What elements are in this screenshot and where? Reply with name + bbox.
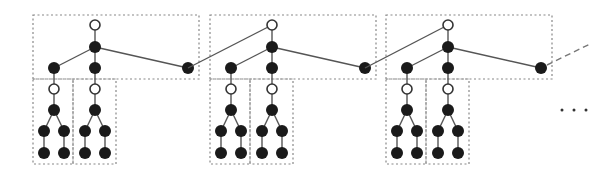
filled-node bbox=[58, 147, 70, 159]
open-node bbox=[443, 20, 453, 30]
filled-node bbox=[48, 62, 60, 74]
chain-edge bbox=[365, 25, 448, 68]
filled-node bbox=[48, 104, 60, 116]
filled-node bbox=[266, 41, 278, 53]
filled-node bbox=[38, 125, 50, 137]
filled-node bbox=[215, 147, 227, 159]
filled-node bbox=[535, 62, 547, 74]
tree-edge bbox=[54, 47, 95, 68]
filled-node bbox=[411, 125, 423, 137]
filled-node bbox=[89, 62, 101, 74]
filled-node bbox=[215, 125, 227, 137]
filled-node bbox=[79, 147, 91, 159]
filled-node bbox=[432, 125, 444, 137]
open-node bbox=[90, 20, 100, 30]
tree-edge bbox=[448, 47, 541, 68]
ellipsis-dot bbox=[573, 109, 576, 112]
filled-node bbox=[276, 125, 288, 137]
filled-node bbox=[256, 125, 268, 137]
filled-node bbox=[266, 62, 278, 74]
filled-node bbox=[235, 125, 247, 137]
filled-node bbox=[432, 147, 444, 159]
chain-edge bbox=[188, 25, 272, 68]
open-node bbox=[267, 20, 277, 30]
filled-node bbox=[442, 62, 454, 74]
filled-node bbox=[79, 125, 91, 137]
ellipsis-dot bbox=[561, 109, 564, 112]
tree-edge bbox=[407, 47, 448, 68]
filled-node bbox=[442, 104, 454, 116]
open-node bbox=[443, 84, 453, 94]
filled-node bbox=[391, 147, 403, 159]
open-node bbox=[49, 84, 59, 94]
open-node bbox=[226, 84, 236, 94]
open-node bbox=[90, 84, 100, 94]
filled-node bbox=[225, 104, 237, 116]
tree-edge bbox=[231, 47, 272, 68]
open-node bbox=[402, 84, 412, 94]
filled-node bbox=[58, 125, 70, 137]
continuation-dashed-edge bbox=[547, 44, 590, 65]
filled-node bbox=[99, 125, 111, 137]
filled-node bbox=[266, 104, 278, 116]
filled-node bbox=[452, 125, 464, 137]
filled-node bbox=[391, 125, 403, 137]
filled-node bbox=[89, 41, 101, 53]
filled-node bbox=[442, 41, 454, 53]
tree-edge bbox=[272, 47, 365, 68]
filled-node bbox=[401, 104, 413, 116]
filled-node bbox=[401, 62, 413, 74]
filled-node bbox=[38, 147, 50, 159]
filled-node bbox=[452, 147, 464, 159]
tree-edge bbox=[95, 47, 188, 68]
filled-node bbox=[411, 147, 423, 159]
filled-node bbox=[235, 147, 247, 159]
filled-node bbox=[256, 147, 268, 159]
open-node bbox=[267, 84, 277, 94]
tree-chain-diagram bbox=[0, 0, 615, 172]
filled-node bbox=[99, 147, 111, 159]
filled-node bbox=[225, 62, 237, 74]
filled-node bbox=[89, 104, 101, 116]
filled-node bbox=[276, 147, 288, 159]
ellipsis-dot bbox=[585, 109, 588, 112]
